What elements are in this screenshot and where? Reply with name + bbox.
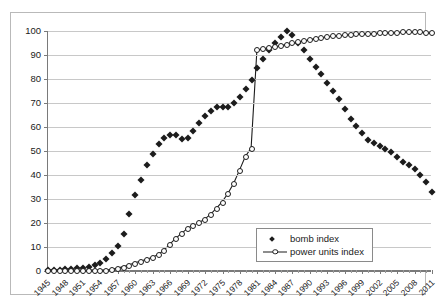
data-point-bomb-index — [300, 47, 307, 54]
x-axis-tick — [316, 270, 317, 273]
x-axis-tick — [234, 270, 235, 273]
x-axis-tick — [327, 270, 328, 274]
y-axis-tick — [44, 55, 48, 56]
data-point-bomb-index — [120, 230, 127, 237]
x-axis-tick — [397, 270, 398, 274]
data-point-bomb-index — [225, 104, 232, 111]
x-axis-tick — [176, 270, 177, 273]
x-axis-label: 1969 — [172, 278, 192, 298]
x-axis-label: 1960 — [120, 278, 140, 298]
x-axis-tick — [199, 270, 200, 273]
gridline — [48, 55, 431, 56]
gridline — [48, 151, 431, 152]
data-point-bomb-index — [312, 63, 319, 70]
y-axis-tick — [44, 103, 48, 104]
x-axis-tick — [420, 270, 421, 273]
x-axis-label: 1957 — [102, 278, 122, 298]
data-point-power-units-index — [225, 191, 231, 197]
data-point-bomb-index — [231, 99, 238, 106]
data-point-power-units-index — [161, 248, 167, 254]
data-point-bomb-index — [335, 96, 342, 103]
x-axis-tick — [380, 270, 381, 274]
data-point-bomb-index — [138, 176, 145, 183]
gridline — [48, 247, 431, 248]
legend-label-power-units-index: power units index — [288, 245, 364, 258]
data-point-bomb-index — [254, 65, 261, 72]
chart-frame: 0102030405060708090100194519481951195419… — [10, 12, 426, 295]
y-axis-tick — [44, 151, 48, 152]
data-point-power-units-index — [208, 212, 214, 218]
x-axis-label: 1972 — [190, 278, 210, 298]
legend-key-filled-diamond-icon — [262, 233, 288, 245]
data-point-bomb-index — [394, 153, 401, 160]
x-axis-tick — [159, 270, 160, 273]
x-axis-tick — [345, 270, 346, 274]
x-axis-label: 2011 — [417, 278, 436, 297]
x-axis-tick — [164, 270, 165, 273]
x-axis-label: 1948 — [50, 278, 70, 298]
data-point-power-units-index — [249, 146, 255, 152]
x-axis-tick — [135, 270, 136, 274]
data-point-bomb-index — [236, 93, 243, 100]
x-axis-tick — [321, 270, 322, 273]
data-point-bomb-index — [388, 149, 395, 156]
gridline — [48, 79, 431, 80]
x-axis-tick — [333, 270, 334, 273]
data-point-bomb-index — [103, 255, 110, 262]
data-point-bomb-index — [411, 166, 418, 173]
x-axis-tick — [263, 270, 264, 273]
data-point-power-units-index — [173, 236, 179, 242]
x-axis-tick — [223, 270, 224, 274]
y-axis-tick — [44, 223, 48, 224]
y-axis-label: 20 — [30, 218, 41, 228]
data-point-bomb-index — [260, 55, 267, 62]
x-axis-tick — [287, 270, 288, 273]
x-axis-tick — [211, 270, 212, 273]
y-axis-label: 70 — [30, 98, 41, 108]
y-axis-label: 90 — [30, 50, 41, 60]
x-axis-tick — [257, 270, 258, 274]
data-point-bomb-index — [114, 242, 121, 249]
x-axis-tick — [153, 270, 154, 274]
x-axis-label: 1978 — [224, 278, 244, 298]
x-axis-label: 1996 — [329, 278, 349, 298]
data-point-bomb-index — [423, 179, 430, 186]
y-axis-tick — [44, 79, 48, 80]
data-point-bomb-index — [126, 210, 133, 217]
x-axis-tick — [217, 270, 218, 273]
data-point-bomb-index — [306, 55, 313, 62]
y-axis-tick — [44, 127, 48, 128]
x-axis-label: 2002 — [364, 278, 384, 298]
data-point-bomb-index — [196, 119, 203, 126]
x-axis-tick — [205, 270, 206, 274]
y-axis-label: 10 — [30, 242, 41, 252]
x-axis-tick — [188, 270, 189, 274]
x-axis-tick — [269, 270, 270, 273]
x-axis-label: 1984 — [259, 278, 279, 298]
x-axis-tick — [292, 270, 293, 274]
x-axis-tick — [240, 270, 241, 274]
data-point-bomb-index — [347, 115, 354, 122]
data-point-power-units-index — [156, 252, 162, 258]
data-point-bomb-index — [190, 128, 197, 135]
x-axis-tick — [374, 270, 375, 273]
data-point-bomb-index — [248, 76, 255, 83]
x-axis-tick — [281, 270, 282, 273]
x-axis-tick — [129, 270, 130, 273]
y-axis-tick — [44, 175, 48, 176]
y-axis-tick — [44, 247, 48, 248]
data-point-bomb-index — [143, 161, 150, 168]
data-point-bomb-index — [207, 107, 214, 114]
gridline — [48, 127, 431, 128]
x-axis-tick — [339, 270, 340, 273]
legend-key-line-circle-icon — [262, 246, 288, 258]
y-axis-tick — [44, 31, 48, 32]
x-axis-tick — [368, 270, 369, 273]
x-axis-tick — [356, 270, 357, 273]
x-axis-tick — [432, 270, 433, 274]
data-point-power-units-index — [214, 206, 220, 212]
x-axis-tick — [147, 270, 148, 273]
x-axis-label: 2005 — [382, 278, 402, 298]
x-axis-tick — [298, 270, 299, 273]
x-axis-tick — [426, 270, 427, 273]
